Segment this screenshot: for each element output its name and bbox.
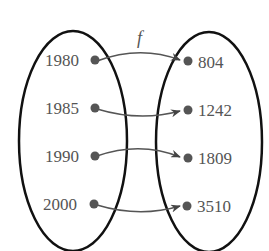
domain-value: 2000 [43, 195, 77, 214]
mapping-arrow [97, 149, 180, 157]
domain-dot [91, 152, 100, 161]
domain-value: 1980 [45, 51, 79, 70]
domain-value: 1985 [45, 99, 79, 118]
function-mapping-diagram: f 1980 1985 1990 2000 804 1242 1809 3510 [0, 0, 269, 251]
range-dot [183, 202, 192, 211]
range-value: 3510 [197, 197, 231, 216]
range-value: 1809 [198, 149, 232, 168]
range-dot [184, 57, 193, 66]
range-dot [184, 154, 193, 163]
domain-dot [91, 104, 100, 113]
domain-dot [90, 200, 99, 209]
range-value: 1242 [198, 101, 232, 120]
domain-value: 1990 [45, 147, 79, 166]
range-dot [184, 106, 193, 115]
range-value: 804 [198, 53, 224, 72]
function-label: f [137, 28, 145, 48]
mapping-arrow [97, 109, 180, 116]
domain-dot [91, 56, 100, 65]
